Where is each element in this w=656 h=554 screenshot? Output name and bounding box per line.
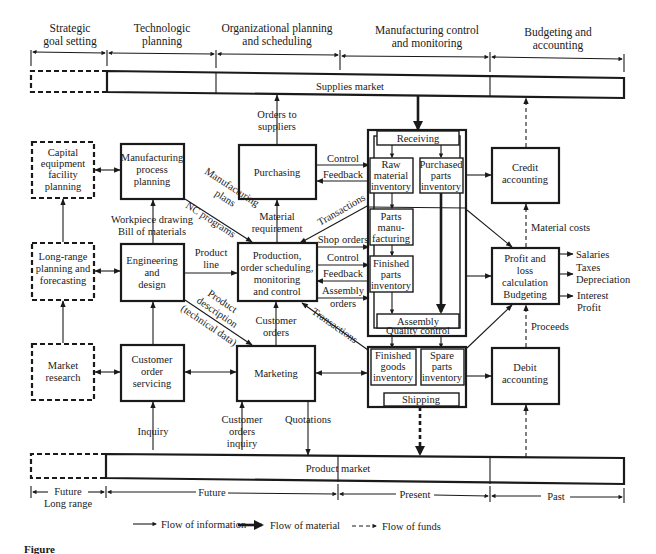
svg-text:Engineering: Engineering (126, 255, 178, 266)
svg-text:inventory: inventory (371, 181, 412, 192)
svg-text:Debit: Debit (513, 362, 536, 373)
header-technologic-2: planning (142, 35, 182, 48)
svg-text:order scheduling,: order scheduling, (241, 262, 314, 273)
svg-text:Taxes: Taxes (576, 262, 600, 273)
svg-text:Credit: Credit (512, 162, 538, 173)
svg-text:inventory: inventory (421, 181, 462, 192)
svg-text:Manufacturing: Manufacturing (121, 152, 184, 163)
box-capital-equipment[interactable]: Capital equipment facility planning (32, 142, 94, 198)
svg-text:inventory: inventory (422, 372, 463, 383)
legend-material: Flow of material (270, 520, 340, 531)
svg-text:orders: orders (330, 298, 356, 309)
box-market-research[interactable]: Market research (32, 344, 94, 400)
box-production-scheduling[interactable]: Production, order scheduling, monitoring… (238, 243, 317, 301)
svg-text:loss: loss (517, 265, 533, 276)
svg-text:and control: and control (253, 286, 301, 297)
header-organizational-1: Organizational planning (221, 22, 332, 35)
box-long-range-planning[interactable]: Long-range planning and forecasting (32, 243, 94, 300)
svg-text:manu-: manu- (378, 222, 405, 233)
svg-text:design: design (138, 279, 166, 290)
header-strategic-2: goal setting (43, 35, 97, 48)
box-profit-loss[interactable]: Profit and loss calculation Budgeting (492, 248, 559, 304)
svg-text:Material costs: Material costs (531, 222, 590, 233)
svg-text:parts: parts (381, 269, 401, 280)
svg-text:Proceeds: Proceeds (531, 321, 569, 332)
svg-text:and: and (144, 267, 160, 278)
svg-text:Capital: Capital (48, 147, 78, 158)
svg-text:suppliers: suppliers (258, 121, 296, 132)
svg-text:line: line (203, 259, 219, 270)
svg-text:Interest: Interest (577, 290, 609, 301)
svg-text:requirement: requirement (252, 223, 303, 234)
supplies-market-band: Supplies market (31, 71, 624, 98)
box-engineering-design[interactable]: Engineering and design (121, 244, 184, 301)
receiving-label: Receiving (397, 133, 440, 144)
svg-text:accounting: accounting (502, 374, 549, 385)
svg-text:facility: facility (48, 169, 78, 180)
box-customer-order-servicing[interactable]: Customer order servicing (121, 345, 184, 401)
svg-text:inquiry: inquiry (227, 438, 258, 449)
timeline-future-longrange-1: Future (54, 486, 82, 497)
svg-text:Shipping: Shipping (402, 394, 441, 405)
box-debit-accounting[interactable]: Debit accounting (492, 348, 559, 404)
box-manufacturing-process-planning[interactable]: Manufacturing process planning (121, 144, 184, 199)
product-market-band: Product market (31, 454, 624, 484)
cim-flow-diagram: Strategic goal setting Technologic plann… (0, 0, 656, 554)
header-manufacturing-1: Manufacturing control (375, 24, 479, 37)
svg-text:goods: goods (380, 361, 405, 372)
svg-text:Customer: Customer (256, 315, 297, 326)
svg-text:monitoring: monitoring (254, 274, 301, 285)
legend-funds: Flow of funds (382, 521, 441, 532)
svg-text:material: material (374, 170, 408, 181)
legend: Flow of information Flow of material Flo… (133, 519, 441, 532)
box-purchasing[interactable]: Purchasing (239, 145, 316, 199)
svg-text:Quotations: Quotations (285, 414, 331, 425)
svg-text:Workpiece drawing: Workpiece drawing (111, 214, 194, 225)
header-budgeting-1: Budgeting and (524, 26, 592, 39)
svg-text:Profit: Profit (577, 302, 601, 313)
phase-headers: Strategic goal setting Technologic plann… (31, 22, 624, 72)
box-credit-accounting[interactable]: Credit accounting (492, 148, 559, 203)
factory-block: Receiving Raw material inventory Purchas… (368, 130, 466, 347)
box-marketing[interactable]: Marketing (237, 346, 315, 401)
svg-text:Feedback: Feedback (323, 268, 364, 279)
product-market-label: Product market (306, 463, 371, 474)
svg-text:Inquiry: Inquiry (138, 426, 170, 437)
shipping-block: Finished goods inventory Spare parts inv… (368, 347, 466, 407)
svg-text:orders: orders (229, 426, 255, 437)
svg-text:Material: Material (259, 211, 295, 222)
svg-text:Parts: Parts (381, 211, 402, 222)
svg-text:Spare: Spare (430, 350, 454, 361)
svg-text:Raw: Raw (381, 159, 401, 170)
svg-text:Long-range: Long-range (39, 251, 88, 262)
header-organizational-2: and scheduling (242, 35, 312, 48)
svg-text:Customer: Customer (132, 354, 173, 365)
svg-text:Finished: Finished (375, 350, 412, 361)
svg-text:process: process (136, 164, 168, 175)
timeline-present: Present (400, 489, 431, 500)
svg-text:Product: Product (195, 247, 228, 258)
svg-text:Purchased: Purchased (419, 159, 463, 170)
svg-text:Budgeting: Budgeting (503, 289, 547, 300)
svg-text:parts: parts (431, 170, 451, 181)
svg-text:research: research (46, 372, 82, 383)
svg-text:Customer: Customer (222, 414, 263, 425)
svg-text:planning: planning (45, 181, 82, 192)
svg-text:Control: Control (327, 153, 359, 164)
svg-text:Finished: Finished (373, 258, 410, 269)
figure-caption: Figure (24, 543, 55, 554)
header-technologic-1: Technologic (134, 22, 191, 35)
svg-text:facturing: facturing (372, 233, 411, 244)
svg-text:Assembly: Assembly (322, 285, 365, 296)
header-manufacturing-2: and monitoring (392, 37, 463, 50)
svg-text:planning: planning (134, 176, 171, 187)
quality-control-label: Quality control (386, 325, 450, 336)
svg-text:forecasting: forecasting (40, 275, 87, 286)
svg-text:inventory: inventory (371, 280, 412, 291)
svg-text:Shop orders: Shop orders (318, 234, 368, 245)
svg-text:calculation: calculation (502, 277, 549, 288)
svg-text:Transactions: Transactions (316, 192, 368, 228)
svg-text:inventory: inventory (373, 372, 414, 383)
svg-text:order: order (141, 366, 164, 377)
svg-text:Purchasing: Purchasing (254, 167, 301, 178)
